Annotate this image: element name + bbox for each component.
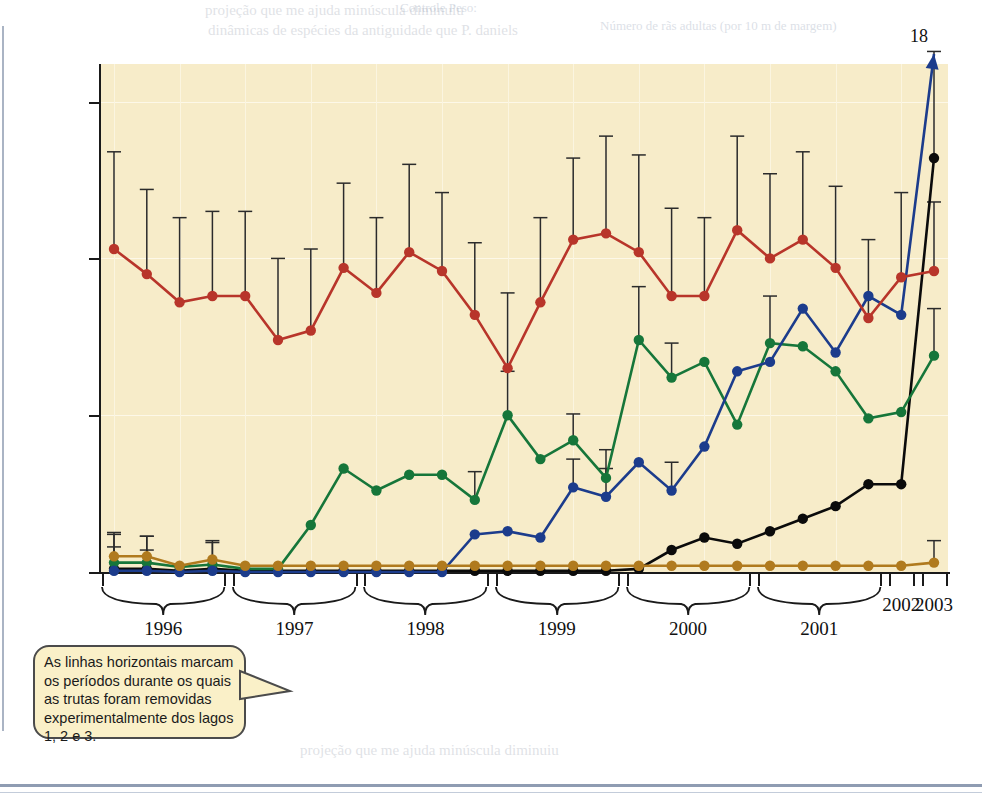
data-point: [765, 561, 775, 571]
data-point: [306, 520, 316, 530]
data-point: [699, 561, 709, 571]
data-point: [338, 263, 348, 273]
data-point: [699, 532, 709, 542]
data-point: [338, 463, 348, 473]
data-point: [765, 357, 775, 367]
error-bar: [271, 258, 285, 340]
data-point: [502, 561, 512, 571]
data-point: [601, 492, 611, 502]
data-point: [568, 234, 578, 244]
data-point: [863, 561, 873, 571]
data-point: [535, 561, 545, 571]
data-point: [568, 561, 578, 571]
error-bar: [763, 296, 777, 343]
bleed-text-line: projeção que me ajuda minúscula diminuiu: [300, 742, 559, 759]
data-point: [896, 310, 906, 320]
data-point: [896, 479, 906, 489]
data-point: [207, 566, 217, 576]
year-label: 2001: [789, 618, 849, 640]
data-point: [273, 335, 283, 345]
data-point: [502, 363, 512, 373]
data-point: [732, 419, 742, 429]
data-point: [863, 413, 873, 423]
data-point: [634, 247, 644, 257]
data-point: [929, 350, 939, 360]
data-point: [109, 551, 119, 561]
data-point: [306, 561, 316, 571]
data-point: [634, 561, 644, 571]
data-point: [634, 457, 644, 467]
data-point: [404, 561, 414, 571]
data-point: [601, 561, 611, 571]
error-bar: [435, 193, 449, 271]
data-point: [830, 263, 840, 273]
data-point: [338, 561, 348, 571]
data-point: [634, 335, 644, 345]
data-point: [830, 501, 840, 511]
data-point: [240, 291, 250, 301]
year-bracket: [625, 585, 751, 619]
data-point: [863, 291, 873, 301]
year-bracket: [362, 585, 488, 619]
data-point: [830, 347, 840, 357]
year-label: 2000: [658, 618, 718, 640]
data-point: [896, 561, 906, 571]
data-point: [470, 561, 480, 571]
data-point: [437, 470, 447, 480]
data-point: [535, 454, 545, 464]
data-point: [568, 435, 578, 445]
data-point: [798, 561, 808, 571]
data-point: [699, 357, 709, 367]
data-point: [207, 291, 217, 301]
error-bar: [173, 218, 187, 303]
annotation-callout: As linhas horizontais marcam os períodos…: [33, 645, 246, 739]
year-label: 1998: [396, 618, 456, 640]
error-bar: [829, 186, 843, 268]
data-point: [502, 526, 512, 536]
error-bar: [205, 211, 219, 296]
data-point: [535, 532, 545, 542]
year-bracket: [231, 585, 357, 619]
data-point: [732, 225, 742, 235]
error-bar: [140, 189, 154, 274]
error-bar: [927, 309, 941, 356]
data-point: [601, 473, 611, 483]
data-point: [798, 234, 808, 244]
data-point: [765, 526, 775, 536]
year-bracket: [100, 585, 226, 619]
bleed-text-line: projeção que me ajuda minúscula diminuiu: [205, 2, 464, 19]
year-bracket: [756, 585, 882, 619]
data-point: [863, 313, 873, 323]
page-bottom-rule-thin: [0, 792, 982, 793]
year-label: 1999: [527, 618, 587, 640]
data-point: [174, 561, 184, 571]
data-point: [404, 247, 414, 257]
error-bar: [566, 158, 580, 240]
data-point: [765, 338, 775, 348]
data-point: [174, 297, 184, 307]
error-bar: [730, 136, 744, 230]
data-point: [929, 266, 939, 276]
error-bar: [665, 208, 679, 296]
data-point: [109, 566, 119, 576]
year-label: 1997: [264, 618, 324, 640]
data-point: [437, 266, 447, 276]
series-lago-3: [109, 153, 939, 576]
page-bottom-rule: [0, 784, 982, 787]
bleed-text-line: Controle Peso:: [400, 0, 477, 16]
error-bar: [763, 174, 777, 259]
error-bar: [501, 371, 515, 415]
data-point: [470, 495, 480, 505]
data-point: [470, 310, 480, 320]
data-point: [798, 303, 808, 313]
data-point: [666, 291, 676, 301]
offscale-arrowhead: [926, 54, 939, 70]
data-point: [601, 228, 611, 238]
data-point: [142, 269, 152, 279]
data-point: [502, 410, 512, 420]
data-point: [765, 253, 775, 263]
error-bar: [402, 164, 416, 252]
figure-container: 0,02,55,07,5 Número de rãs adultas (por …: [0, 26, 982, 731]
data-point: [929, 557, 939, 567]
data-point: [830, 366, 840, 376]
